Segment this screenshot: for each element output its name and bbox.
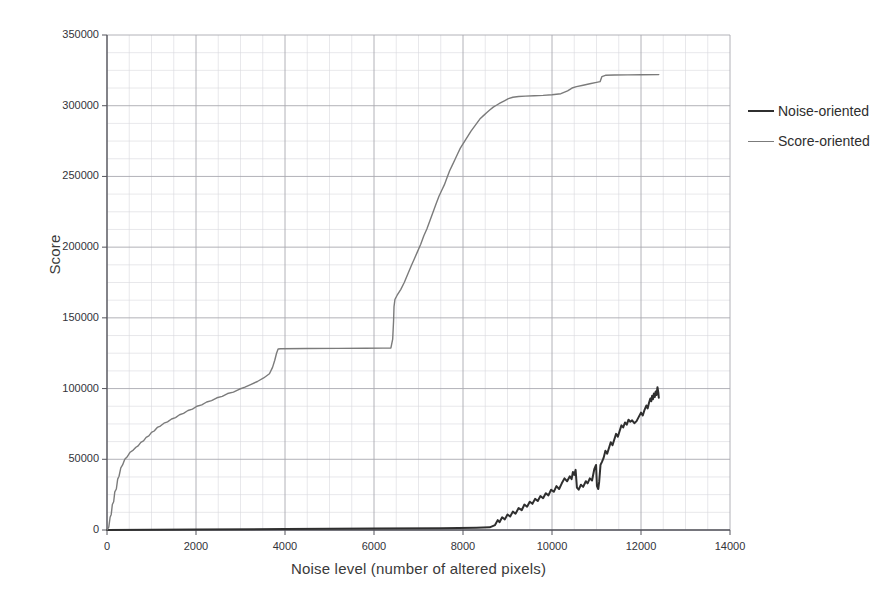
minor-gridlines bbox=[107, 35, 730, 530]
y-tick-label: 350000 bbox=[29, 28, 99, 40]
legend-item-label: Score-oriented bbox=[778, 133, 870, 149]
x-tick-label: 10000 bbox=[517, 540, 587, 552]
y-tick-label: 250000 bbox=[29, 169, 99, 181]
legend-item-label: Noise-oriented bbox=[778, 103, 869, 119]
x-tick-label: 4000 bbox=[250, 540, 320, 552]
chart-figure: Score Noise level (number of altered pix… bbox=[0, 0, 893, 598]
x-tick-label: 0 bbox=[72, 540, 142, 552]
x-tick-label: 2000 bbox=[161, 540, 231, 552]
x-tick-label: 12000 bbox=[606, 540, 676, 552]
y-tick-label: 0 bbox=[29, 523, 99, 535]
legend-item: Score-oriented bbox=[748, 126, 893, 156]
y-tick-label: 100000 bbox=[29, 382, 99, 394]
legend-line-swatch bbox=[748, 110, 774, 112]
y-axis-title: Score bbox=[46, 195, 63, 315]
y-tick-label: 150000 bbox=[29, 311, 99, 323]
legend-item: Noise-oriented bbox=[748, 96, 893, 126]
y-tick-label: 50000 bbox=[29, 452, 99, 464]
line-chart-plot bbox=[0, 0, 893, 598]
y-tick-label: 300000 bbox=[29, 99, 99, 111]
x-axis-title: Noise level (number of altered pixels) bbox=[107, 560, 730, 577]
series-line-score-oriented bbox=[107, 75, 659, 530]
y-tick-label: 200000 bbox=[29, 240, 99, 252]
series-line-noise-oriented bbox=[107, 387, 659, 530]
x-tick-label: 6000 bbox=[339, 540, 409, 552]
x-tick-label: 14000 bbox=[695, 540, 765, 552]
chart-legend: Noise-orientedScore-oriented bbox=[748, 96, 893, 156]
x-tick-label: 8000 bbox=[428, 540, 498, 552]
legend-line-swatch bbox=[748, 141, 774, 142]
